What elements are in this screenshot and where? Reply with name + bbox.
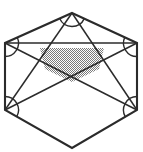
figure-container [0, 0, 143, 152]
hexagon-geometry-figure [0, 0, 143, 152]
